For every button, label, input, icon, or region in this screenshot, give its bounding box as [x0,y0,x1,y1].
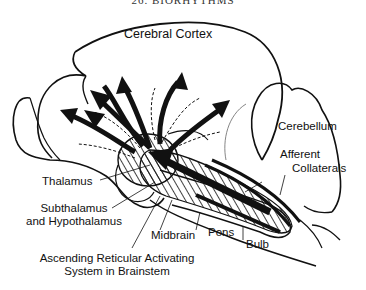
label-cerebellum: Cerebellum [278,120,337,133]
label-subthalamus: Subthalamus and Hypothalamus [19,202,129,228]
label-afferent: Afferent [280,148,320,161]
label-bulb: Bulb [246,238,269,251]
label-aras-line1: Ascending Reticular Activating [22,252,212,265]
label-thalamus: Thalamus [42,175,93,188]
label-subthalamus-line2: and Hypothalamus [19,215,129,228]
label-midbrain: Midbrain [151,229,195,242]
label-aras-line2: System in Brainstem [22,265,212,278]
label-cerebral-cortex: Cerebral Cortex [124,28,212,41]
label-pons: Pons [208,226,234,239]
label-subthalamus-line1: Subthalamus [19,202,129,215]
brain-diagram [0,0,366,290]
cortical-projection-arrows [60,72,230,152]
label-collaterals: Collaterals [292,162,346,175]
label-aras: Ascending Reticular Activating System in… [22,252,212,278]
